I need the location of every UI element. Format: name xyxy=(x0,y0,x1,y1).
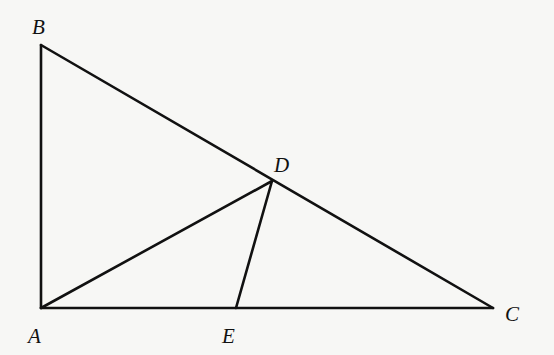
label-D: D xyxy=(273,153,289,177)
segment-DE xyxy=(236,181,272,308)
geometry-diagram: A B C D E xyxy=(0,0,554,355)
segments xyxy=(41,45,493,308)
segment-BC xyxy=(41,45,493,308)
label-C: C xyxy=(505,302,520,326)
label-B: B xyxy=(32,15,45,39)
label-A: A xyxy=(26,324,41,348)
label-E: E xyxy=(221,324,235,348)
segment-AD xyxy=(41,181,272,308)
